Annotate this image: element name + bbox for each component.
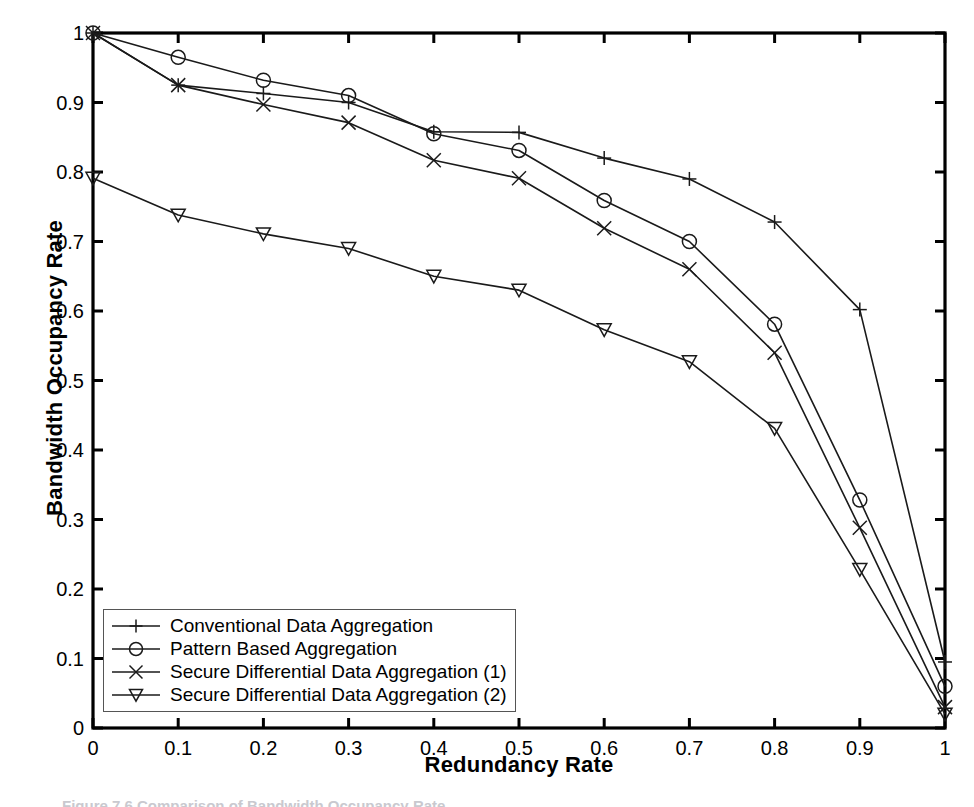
- legend-marker-circle-icon: [110, 639, 162, 659]
- data-point-marker-plus: [256, 86, 270, 100]
- legend-label: Pattern Based Aggregation: [170, 639, 397, 659]
- legend-label: Conventional Data Aggregation: [170, 616, 433, 636]
- data-point-marker-cross: [768, 346, 782, 360]
- legend-marker-cross-icon: [110, 662, 162, 682]
- data-point-marker-cross: [682, 262, 696, 276]
- legend-item: Secure Differential Data Aggregation (1): [110, 660, 507, 683]
- legend-item: Pattern Based Aggregation: [110, 637, 507, 660]
- x-axis-title: Redundancy Rate: [93, 752, 945, 778]
- legend-item: Conventional Data Aggregation: [110, 614, 507, 637]
- legend-marker-triangle-down-icon: [110, 685, 162, 705]
- figure-caption: Figure 7.6 Comparison of Bandwidth Occup…: [62, 797, 962, 807]
- legend-label: Secure Differential Data Aggregation (2): [170, 685, 507, 705]
- data-point-marker-cross: [853, 521, 867, 535]
- legend-marker-plus-icon: [110, 616, 162, 636]
- data-point-marker-plus: [597, 151, 611, 165]
- legend-label: Secure Differential Data Aggregation (1): [170, 662, 507, 682]
- chart-legend: Conventional Data AggregationPattern Bas…: [103, 609, 516, 712]
- data-point-marker-plus: [130, 619, 143, 632]
- data-point-marker-cross: [597, 221, 611, 235]
- data-point-marker-plus: [682, 172, 696, 186]
- figure-container: Bandwidth Occupancy Rate 00.10.20.30.40.…: [0, 0, 974, 807]
- series-0: [86, 26, 952, 669]
- data-point-marker-cross: [512, 171, 526, 185]
- data-point-marker-cross: [427, 153, 441, 167]
- data-point-marker-cross: [342, 116, 356, 130]
- legend-item: Secure Differential Data Aggregation (2): [110, 683, 507, 706]
- data-point-marker-plus: [512, 125, 526, 139]
